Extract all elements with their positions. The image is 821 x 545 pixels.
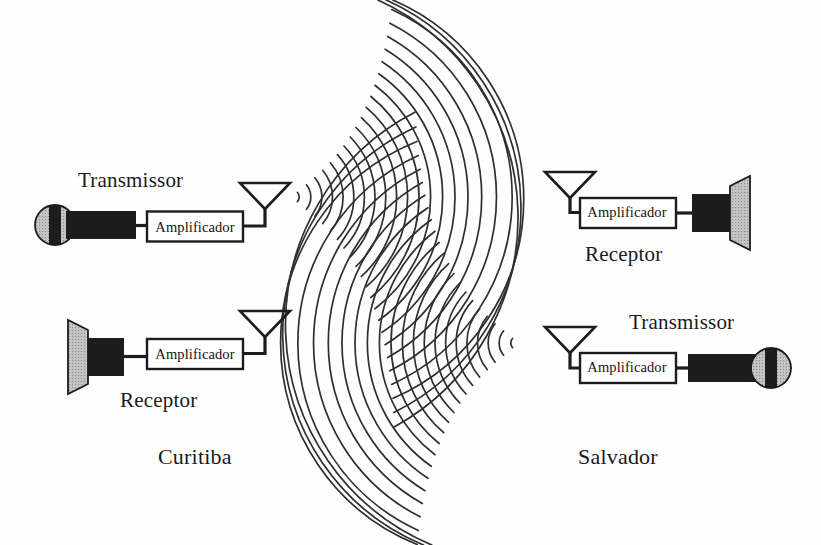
microphone-icon bbox=[688, 348, 791, 388]
cable-amp-antenna bbox=[243, 336, 265, 354]
antenna-icon bbox=[545, 172, 595, 198]
cable-antenna-amp bbox=[570, 197, 580, 213]
wave-arcs-left-source bbox=[297, 0, 523, 427]
station-salvador-transmitter[interactable] bbox=[545, 327, 791, 388]
amplifier-label-4: Amplificador bbox=[580, 360, 674, 375]
cable-amp-antenna bbox=[243, 208, 265, 226]
amplifier-label-2: Amplificador bbox=[148, 347, 242, 362]
label-transmitter-right: Transmissor bbox=[629, 310, 734, 335]
cable-antenna-amp bbox=[570, 352, 580, 368]
antenna-icon bbox=[545, 327, 595, 353]
diagram-canvas: Transmissor Receptor Receptor Transmisso… bbox=[0, 0, 821, 545]
amplifier-label-1: Amplificador bbox=[148, 220, 242, 235]
microphone-icon bbox=[35, 205, 136, 245]
label-receiver-right: Receptor bbox=[585, 242, 662, 267]
label-city-salvador: Salvador bbox=[578, 444, 658, 470]
wave-arcs-right-source bbox=[281, 112, 513, 545]
label-transmitter-left: Transmissor bbox=[78, 168, 183, 193]
speaker-icon bbox=[692, 176, 750, 250]
label-city-curitiba: Curitiba bbox=[158, 444, 232, 470]
antenna-icon bbox=[240, 183, 290, 209]
speaker-icon bbox=[68, 320, 124, 394]
radio-transmission-diagram bbox=[0, 0, 821, 545]
label-receiver-left: Receptor bbox=[120, 388, 197, 413]
amplifier-label-3: Amplificador bbox=[580, 205, 674, 220]
